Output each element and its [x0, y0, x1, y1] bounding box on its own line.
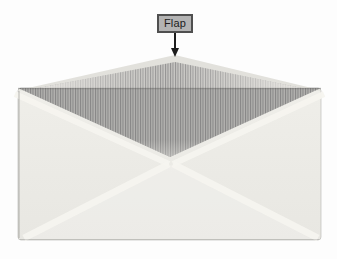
flap-lining-wash	[30, 62, 309, 90]
flap-pointer-arrow-shaft	[174, 33, 176, 49]
arrow-down-icon	[171, 48, 179, 57]
envelope-illustration	[0, 0, 337, 259]
flap-callout-label: Flap	[157, 14, 193, 33]
figure-canvas: Flap	[0, 0, 337, 259]
